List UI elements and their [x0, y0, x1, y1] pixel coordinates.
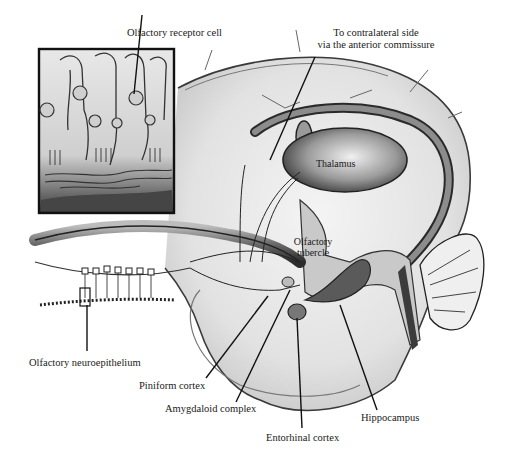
label-thalamus: Thalamus [316, 158, 355, 170]
label-amygdaloid-complex: Amygdaloid complex [165, 403, 256, 415]
label-olfactory-receptor-cell: Olfactory receptor cell [127, 27, 222, 39]
label-olfactory-neuroepithelium: Olfactory neuroepithelium [29, 357, 141, 369]
label-contralateral: To contralateral side via the anterior c… [312, 27, 440, 51]
entorhinal-shape [288, 304, 306, 320]
brain-illustration [0, 0, 515, 465]
label-contralateral-line1: To contralateral side [312, 27, 440, 39]
label-olfactory-tubercle-line1: Olfactory [290, 236, 336, 247]
label-piniform-cortex: Piniform cortex [139, 380, 205, 392]
receptor-cell-inset [39, 49, 174, 213]
label-olfactory-tubercle: Olfactory tubercle [290, 236, 336, 258]
olfactory-pathway-diagram: Olfactory receptor cell To contralateral… [0, 0, 515, 465]
label-hippocampus: Hippocampus [361, 412, 419, 424]
label-entorhinal-cortex: Entorhinal cortex [266, 432, 339, 444]
label-contralateral-line2: via the anterior commissure [312, 39, 440, 51]
label-olfactory-tubercle-line2: tubercle [290, 247, 336, 258]
